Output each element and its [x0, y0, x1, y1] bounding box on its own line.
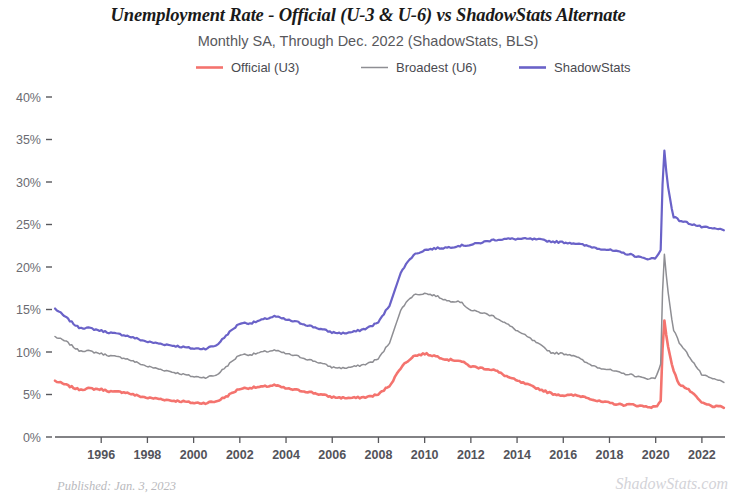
- x-tick-label: 2018: [596, 448, 624, 462]
- y-tick-label: 25%: [16, 218, 41, 232]
- y-tick-label: 15%: [16, 303, 41, 317]
- x-tick-label: 2022: [688, 448, 716, 462]
- chart-subtitle: Monthly SA, Through Dec. 2022 (ShadowSta…: [198, 33, 539, 49]
- y-tick-label: 30%: [16, 176, 41, 190]
- x-tick-label: 2008: [365, 448, 393, 462]
- x-tick-label: 2020: [642, 448, 670, 462]
- unemployment-rate-chart: Unemployment Rate - Official (U-3 & U-6)…: [0, 0, 736, 497]
- x-tick-label: 2002: [226, 448, 254, 462]
- chart-legend: Official (U3)Broadest (U6)ShadowStats: [196, 60, 631, 75]
- y-tick-label: 40%: [16, 91, 41, 105]
- watermark: ShadowStats.com: [616, 475, 728, 492]
- y-tick-label: 20%: [16, 261, 41, 275]
- x-tick-label: 2006: [318, 448, 346, 462]
- x-tick-label: 2000: [180, 448, 208, 462]
- legend-label: Official (U3): [231, 60, 299, 75]
- chart-title: Unemployment Rate - Official (U-3 & U-6)…: [111, 5, 626, 26]
- x-tick-label: 2010: [411, 448, 439, 462]
- x-tick-label: 2016: [549, 448, 577, 462]
- y-tick-label: 0%: [23, 431, 41, 445]
- y-tick-label: 5%: [23, 388, 41, 402]
- x-tick-label: 1996: [87, 448, 115, 462]
- x-tick-label: 2012: [457, 448, 485, 462]
- x-tick-label: 2004: [272, 448, 300, 462]
- x-tick-label: 1998: [134, 448, 162, 462]
- legend-label: ShadowStats: [554, 60, 631, 75]
- x-tick-label: 2014: [503, 448, 531, 462]
- published-note: Published: Jan. 3, 2023: [56, 479, 176, 493]
- y-tick-label: 10%: [16, 346, 41, 360]
- legend-label: Broadest (U6): [396, 60, 477, 75]
- chart-canvas: Unemployment Rate - Official (U-3 & U-6)…: [0, 0, 736, 497]
- y-tick-label: 35%: [16, 133, 41, 147]
